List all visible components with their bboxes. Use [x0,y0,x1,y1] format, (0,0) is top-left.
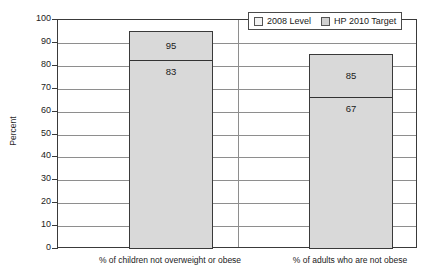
y-axis-tick-label: 10 [21,220,51,229]
gridline [58,43,416,44]
legend-swatch-2008-level [254,17,263,26]
legend-item-2008-level[interactable]: 2008 Level [254,17,311,26]
y-axis-title: Percent [8,96,18,166]
legend-item-hp-2010-target[interactable]: HP 2010 Target [321,17,396,26]
legend: 2008 Level HP 2010 Target [248,12,402,30]
y-axis-tick-label: 0 [21,243,51,252]
y-axis-tick-label: 40 [21,151,51,160]
bar-segment-divider [130,60,212,61]
y-axis-tick-label: 100 [21,14,51,23]
y-axis-tick-label: 80 [21,60,51,69]
bar-chart: Percent 0102030405060708090100 95838567 … [0,0,431,280]
legend-label-2008-level: 2008 Level [267,17,311,26]
bar-value-target: 95 [130,40,212,51]
x-axis-category-label: % of adults who are not obese [240,255,431,265]
y-axis-tick-label: 50 [21,129,51,138]
bar-value-target: 85 [310,70,392,81]
y-axis-tick-label: 90 [21,37,51,46]
bar-segment-divider [310,97,392,98]
plot-area: 95838567 [57,19,417,248]
bar[interactable]: 9583 [129,31,213,249]
y-axis-tick-mark [52,248,58,249]
bar-value-level: 83 [130,66,212,77]
bar[interactable]: 8567 [309,54,393,249]
legend-label-hp-2010-target: HP 2010 Target [334,17,396,26]
y-axis-tick-label: 30 [21,174,51,183]
y-axis-tick-label: 60 [21,106,51,115]
y-axis-tick-label: 70 [21,83,51,92]
category-separator [238,20,239,247]
y-axis-tick-label: 20 [21,197,51,206]
legend-swatch-hp-2010-target [321,17,330,26]
bar-value-level: 67 [310,103,392,114]
